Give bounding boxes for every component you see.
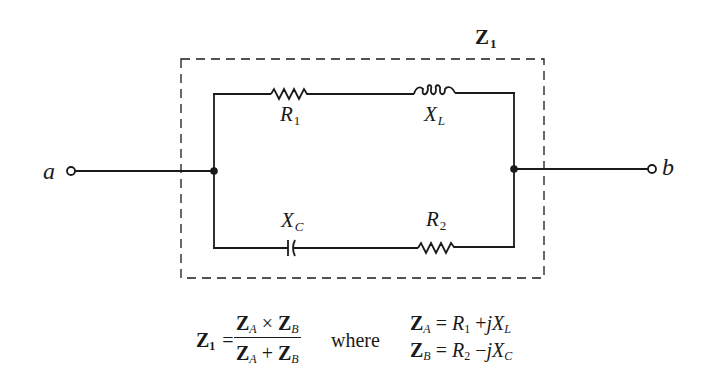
def-zb-x-sub: C [504,349,512,363]
z1-dashed-boundary [181,59,544,278]
xc-label-sub: C [295,219,304,234]
den-za: Z [236,342,249,364]
den-zb-sub: B [291,352,298,366]
z1-label-base: Z [475,25,489,49]
def-za-lhs-sub: A [423,322,430,336]
def-za-r-sub: 1 [464,322,470,336]
formula-lhs-base: Z [196,329,209,351]
inductor-xl-icon [414,85,455,94]
def-za-jx: jX [486,312,504,334]
def-za-eq: = [436,312,447,334]
formula-equals: = [222,329,233,351]
def-zb-r-sub: 2 [464,349,470,363]
formula-lhs-sub: 1 [209,339,215,353]
def-za-op: + [475,312,486,334]
terminal-b-label: b [662,155,674,179]
def-zb-r: R [452,339,464,361]
xc-label-base: X [281,208,294,232]
xl-label-sub: L [438,113,445,128]
def-zb-jx: jX [486,339,504,361]
num-zb-sub: B [291,322,298,336]
den-za-sub: A [249,352,256,366]
r2-label-sub: 2 [440,218,447,233]
def-za-x-sub: L [504,322,511,336]
xl-label: XL [424,104,445,125]
r1-label: R1 [280,104,300,125]
def-zb-eq: = [436,339,447,361]
r2-label: R2 [426,209,446,230]
r2-label-base: R [426,207,439,231]
def-za-r: R [452,312,464,334]
z1-box-label: Z1 [475,27,497,48]
def-zb-lhs: Z [410,339,423,361]
formula-fraction: ZA × ZB ZA + ZB [234,311,301,365]
resistor-r2-icon [418,243,457,253]
num-op: × [262,312,273,334]
fraction-denominator: ZA + ZB [234,341,301,365]
def-za-lhs: Z [410,312,423,334]
formula-where: where [331,330,380,350]
capacitor-xc-icon [288,240,295,256]
r1-label-base: R [280,102,293,126]
resistor-r1-icon [271,89,310,99]
r1-label-sub: 1 [294,113,301,128]
def-zb-op: − [475,339,486,361]
z1-label-sub: 1 [490,36,497,51]
junction-right [510,165,518,173]
num-zb: Z [278,312,291,334]
num-za: Z [236,312,249,334]
def-zb-lhs-sub: B [423,349,430,363]
formula-lhs: Z1 = [196,330,234,350]
terminal-b [648,165,656,173]
formula-def-zb: ZB = R2 −jXC [410,340,512,360]
xc-label: XC [281,210,304,231]
terminal-a-label: a [43,159,55,183]
junction-left [210,167,218,175]
terminal-a [67,167,75,175]
xl-label-base: X [424,102,437,126]
den-zb: Z [278,342,291,364]
fraction-bar [234,337,301,338]
den-op: + [262,342,273,364]
num-za-sub: A [249,322,256,336]
fraction-numerator: ZA × ZB [234,311,301,335]
formula-def-za: ZA = R1 +jXL [410,313,511,333]
circuit-diagram [0,0,712,383]
